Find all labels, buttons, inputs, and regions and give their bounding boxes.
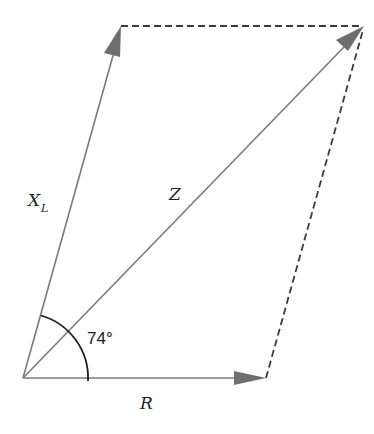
vector-xl-arrowhead-icon <box>104 26 121 57</box>
label-xl: XL <box>28 190 47 210</box>
dashed-right-line <box>266 30 363 378</box>
label-angle-text: 74° <box>87 329 113 348</box>
vector-r-arrowhead-icon <box>234 371 266 385</box>
label-z-text: Z <box>169 184 181 204</box>
phasor-diagram <box>0 0 374 434</box>
vector-z-line <box>23 47 344 378</box>
label-r-text: R <box>140 393 153 413</box>
label-xl-subscript: L <box>41 202 48 215</box>
label-z: Z <box>169 184 181 204</box>
label-xl-main: X <box>28 190 40 210</box>
angle-arc <box>41 316 88 382</box>
label-r: R <box>140 393 153 413</box>
label-angle: 74° <box>87 329 113 349</box>
